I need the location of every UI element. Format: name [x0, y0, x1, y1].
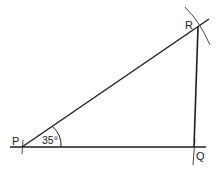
angle-label-p: 35° — [42, 134, 58, 146]
triangle-diagram: P Q R 35° — [0, 0, 224, 173]
line-qr — [194, 27, 198, 147]
point-label-p: P — [12, 135, 19, 147]
line-pr — [22, 19, 209, 147]
construction-tick-p — [22, 140, 23, 154]
point-label-r: R — [185, 19, 193, 31]
point-label-q: Q — [196, 150, 205, 162]
